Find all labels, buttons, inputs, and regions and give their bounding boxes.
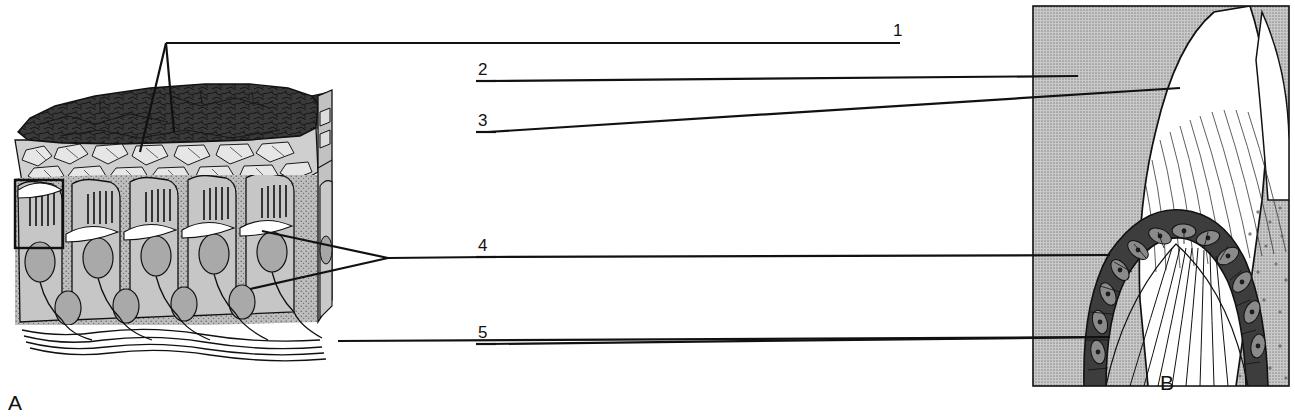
leader-line-4-join — [388, 257, 488, 258]
enamel-surface-layer — [18, 84, 330, 144]
leader-label-4: 4 — [478, 237, 487, 254]
panel-b-illustration — [1033, 6, 1289, 386]
panel-a-letter: A — [8, 392, 22, 413]
anatomical-figure: 1 2 3 4 5 A B — [0, 0, 1295, 420]
leader-line-2 — [488, 76, 1078, 81]
leader-line-4 — [488, 255, 1110, 257]
leader-label-3: 3 — [478, 112, 487, 129]
leader-label-1: 1 — [893, 22, 902, 39]
block-cut-face — [318, 90, 332, 322]
leader-underlines — [476, 43, 1110, 344]
panel-b-letter: B — [1160, 372, 1174, 393]
figure-canvas — [0, 0, 1295, 420]
leader-label-5: 5 — [478, 324, 487, 341]
leader-label-2: 2 — [478, 61, 487, 78]
